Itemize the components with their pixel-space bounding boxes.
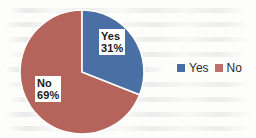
- data-label-no-name: No: [37, 77, 59, 89]
- legend-swatch-no-icon: [215, 64, 223, 72]
- legend-entry-no[interactable]: No: [215, 62, 242, 74]
- legend-entry-yes[interactable]: Yes: [177, 62, 209, 74]
- legend-swatch-yes-icon: [177, 64, 185, 72]
- legend-label-yes: Yes: [189, 62, 209, 74]
- data-label-yes: Yes 31%: [99, 29, 125, 55]
- legend-label-no: No: [227, 62, 242, 74]
- chart-legend: Yes No: [177, 62, 242, 74]
- pie-chart-figure: Yes 31% No 69% Yes No: [0, 0, 256, 138]
- data-label-yes-name: Yes: [101, 30, 123, 42]
- data-label-no: No 69%: [35, 76, 61, 102]
- data-label-no-value: 69%: [37, 89, 59, 101]
- data-label-yes-value: 31%: [101, 42, 123, 54]
